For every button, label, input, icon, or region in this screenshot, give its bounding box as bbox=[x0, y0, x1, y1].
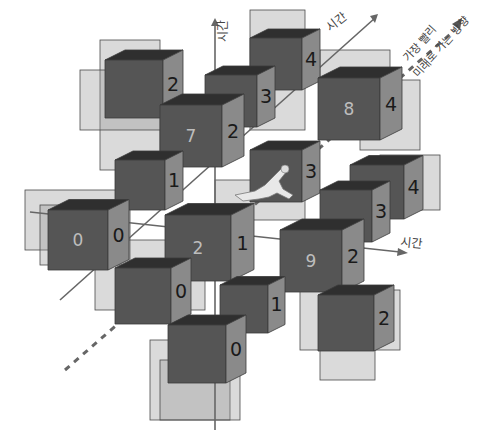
cube-front-number: 0 bbox=[73, 230, 84, 250]
cube-side-number: 1 bbox=[168, 169, 180, 191]
cube-front-number: 7 bbox=[186, 126, 197, 146]
cube-front-face bbox=[115, 268, 171, 324]
cube: 0 bbox=[168, 315, 246, 383]
cube-side-number: 0 bbox=[230, 338, 242, 360]
cube-side-number: 0 bbox=[175, 280, 187, 302]
cube: 2 bbox=[318, 285, 394, 351]
cube-side-number: 1 bbox=[236, 232, 248, 254]
cube-side-number: 4 bbox=[385, 93, 397, 115]
cube-side-number: 3 bbox=[260, 85, 272, 107]
cube-front-face bbox=[168, 325, 226, 383]
cube-side-number: 2 bbox=[347, 245, 359, 267]
cube-side-number: 4 bbox=[407, 176, 419, 198]
diagonal-time-label: 시간 bbox=[323, 10, 349, 35]
cube-side-number: 2 bbox=[378, 307, 390, 329]
cube-side-number: 2 bbox=[227, 120, 239, 142]
cube: 92 bbox=[280, 219, 364, 292]
cube: 00 bbox=[48, 200, 129, 271]
cube-side-number: 2 bbox=[167, 73, 179, 95]
cube-front-number: 9 bbox=[306, 251, 317, 271]
vertical-time-label: 시간 bbox=[216, 20, 230, 42]
cube-side-number: 0 bbox=[112, 224, 124, 246]
horizontal-time-label: 시간 bbox=[400, 235, 423, 251]
cube-side-number: 1 bbox=[270, 293, 282, 315]
cube-front-number: 8 bbox=[344, 99, 355, 119]
cube-front-face bbox=[318, 295, 374, 351]
cube-side-number: 3 bbox=[305, 160, 317, 182]
cube-front-number: 2 bbox=[193, 238, 204, 258]
spacetime-cube-diagram: 2413847213430021920120 시간 시간 시간 가장 빨리 미래… bbox=[0, 0, 478, 442]
cube: 0 bbox=[115, 258, 191, 324]
cube-side-number: 4 bbox=[305, 48, 317, 70]
cube: 84 bbox=[318, 67, 402, 140]
cube-front-face bbox=[105, 60, 163, 118]
cube-side-number: 3 bbox=[375, 200, 387, 222]
